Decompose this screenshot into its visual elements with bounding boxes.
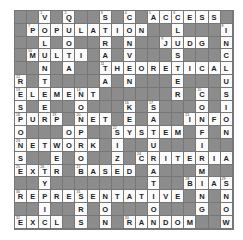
grid-cell-r7-c17[interactable]: I [221,101,233,114]
grid-cell-r14-c10[interactable]: T [136,190,148,203]
grid-cell-r3-c3[interactable]: L [51,49,63,62]
grid-cell-r6-c5[interactable]: 14N [75,88,87,101]
grid-cell-r11-c10[interactable]: 24C [136,152,148,165]
grid-cell-r2-c2[interactable]: L [39,37,51,50]
grid-cell-r8-c2[interactable]: R [39,113,51,126]
grid-cell-r13-c17[interactable]: 29S [221,177,233,190]
grid-cell-r9-c0[interactable]: O [15,126,27,139]
grid-cell-r3-c13[interactable]: S [172,49,184,62]
grid-cell-r16-c12[interactable]: D [160,216,172,229]
grid-cell-r10-c2[interactable]: T [39,139,51,152]
grid-cell-r16-c14[interactable]: M [184,216,196,229]
grid-cell-r9-c13[interactable]: M [172,126,184,139]
grid-cell-r15-c2[interactable]: I [39,203,51,216]
grid-cell-r14-c3[interactable]: R [51,190,63,203]
grid-cell-r1-c3[interactable]: P [51,24,63,37]
grid-cell-r5-c17[interactable]: U [221,75,233,88]
grid-cell-r13-c2[interactable]: Y [39,177,51,190]
grid-cell-r4-c12[interactable]: E [160,62,172,75]
grid-cell-r0-c2[interactable]: 1V [39,11,51,24]
grid-cell-r11-c13[interactable]: T [172,152,184,165]
grid-cell-r16-c17[interactable]: W [221,216,233,229]
grid-cell-r10-c4[interactable]: O [63,139,75,152]
grid-cell-r2-c7[interactable]: R [100,37,112,50]
grid-cell-r4-c14[interactable]: I [184,62,196,75]
grid-cell-r10-c8[interactable]: I [112,139,124,152]
grid-cell-r2-c17[interactable]: N [221,37,233,50]
grid-cell-r8-c6[interactable]: E [88,113,100,126]
grid-cell-r3-c17[interactable]: C [221,49,233,62]
grid-cell-r9-c11[interactable]: T [148,126,160,139]
grid-cell-r12-c1[interactable]: X [27,165,39,178]
grid-cell-r11-c12[interactable]: I [160,152,172,165]
grid-cell-r8-c1[interactable]: U [27,113,39,126]
grid-cell-r14-c2[interactable]: P [39,190,51,203]
grid-cell-r6-c17[interactable]: S [221,88,233,101]
grid-cell-r9-c8[interactable]: 22S [112,126,124,139]
grid-cell-r14-c12[interactable]: V [160,190,172,203]
grid-cell-r4-c13[interactable]: T [172,62,184,75]
grid-cell-r16-c13[interactable]: O [172,216,184,229]
grid-cell-r1-c1[interactable]: 7P [27,24,39,37]
grid-cell-r10-c6[interactable]: K [88,139,100,152]
grid-cell-r11-c0[interactable]: S [15,152,27,165]
grid-cell-r16-c9[interactable]: 33R [124,216,136,229]
grid-cell-r10-c15[interactable]: I [196,139,208,152]
grid-cell-r15-c11[interactable]: O [148,203,160,216]
grid-cell-r15-c7[interactable]: O [100,203,112,216]
grid-cell-r1-c10[interactable]: N [136,24,148,37]
grid-cell-r3-c9[interactable]: V [124,49,136,62]
grid-cell-r8-c7[interactable]: T [100,113,112,126]
grid-cell-r13-c11[interactable]: T [148,177,160,190]
grid-cell-r4-c10[interactable]: O [136,62,148,75]
grid-cell-r0-c12[interactable]: C [160,11,172,24]
grid-cell-r16-c3[interactable]: L [51,216,63,229]
grid-cell-r4-c8[interactable]: H [112,62,124,75]
grid-cell-r16-c7[interactable]: N [100,216,112,229]
grid-cell-r1-c2[interactable]: O [39,24,51,37]
grid-cell-r10-c5[interactable]: R [75,139,87,152]
grid-cell-r1-c6[interactable]: A [88,24,100,37]
grid-cell-r2-c14[interactable]: D [184,37,196,50]
grid-cell-r15-c5[interactable]: R [75,203,87,216]
grid-cell-r11-c5[interactable]: O [75,152,87,165]
grid-cell-r4-c16[interactable]: A [209,62,221,75]
grid-cell-r7-c9[interactable]: 16K [124,101,136,114]
grid-cell-r14-c13[interactable]: E [172,190,184,203]
grid-cell-r0-c11[interactable]: 5A [148,11,160,24]
grid-cell-r5-c7[interactable]: A [100,75,112,88]
grid-cell-r6-c1[interactable]: L [27,88,39,101]
grid-cell-r14-c17[interactable]: N [221,190,233,203]
grid-cell-r12-c6[interactable]: A [88,165,100,178]
grid-cell-r7-c2[interactable]: E [39,101,51,114]
grid-cell-r12-c8[interactable]: E [112,165,124,178]
grid-cell-r4-c9[interactable]: E [124,62,136,75]
grid-cell-r2-c9[interactable]: N [124,37,136,50]
grid-cell-r12-c0[interactable]: 25E [15,165,27,178]
grid-cell-r5-c13[interactable]: E [172,75,184,88]
grid-cell-r1-c17[interactable]: 8I [221,24,233,37]
grid-cell-r1-c9[interactable]: O [124,24,136,37]
grid-cell-r3-c7[interactable]: A [100,49,112,62]
grid-cell-r9-c9[interactable]: Y [124,126,136,139]
grid-cell-r14-c5[interactable]: 31S [75,190,87,203]
grid-cell-r10-c1[interactable]: E [27,139,39,152]
grid-cell-r8-c17[interactable]: O [221,113,233,126]
grid-cell-r2-c4[interactable]: O [63,37,75,50]
grid-cell-r1-c13[interactable]: L [172,24,184,37]
grid-cell-r8-c3[interactable]: 19P [51,113,63,126]
grid-cell-r3-c2[interactable]: U [39,49,51,62]
grid-cell-r8-c15[interactable]: N [196,113,208,126]
grid-cell-r1-c8[interactable]: I [112,24,124,37]
grid-cell-r8-c16[interactable]: F [209,113,221,126]
grid-cell-r12-c15[interactable]: M [196,165,208,178]
grid-cell-r7-c0[interactable]: S [15,101,27,114]
grid-cell-r9-c17[interactable]: N [221,126,233,139]
grid-cell-r14-c6[interactable]: E [88,190,100,203]
grid-cell-r1-c5[interactable]: L [75,24,87,37]
grid-cell-r2-c12[interactable]: 9J [160,37,172,50]
grid-cell-r0-c16[interactable]: S [209,11,221,24]
grid-cell-r1-c4[interactable]: U [63,24,75,37]
grid-cell-r2-c13[interactable]: U [172,37,184,50]
grid-cell-r3-c4[interactable]: T [63,49,75,62]
